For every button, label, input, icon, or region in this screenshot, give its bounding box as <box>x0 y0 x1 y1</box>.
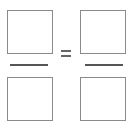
equals-sign-bottom-line <box>61 55 71 57</box>
left-fraction-bar <box>10 64 48 66</box>
right-denominator-input[interactable] <box>80 77 126 121</box>
left-numerator-input[interactable] <box>7 10 53 54</box>
right-numerator-input[interactable] <box>80 10 126 54</box>
left-denominator-input[interactable] <box>7 77 53 121</box>
equals-sign-top-line <box>61 50 71 52</box>
right-fraction-bar <box>85 64 123 66</box>
